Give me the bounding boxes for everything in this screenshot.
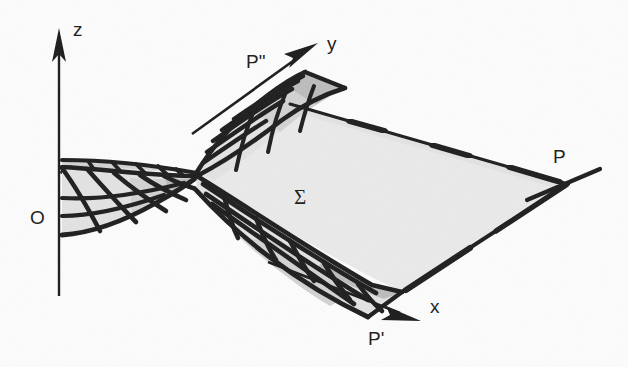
saddle-surface-diagram: reproducing the text of the correspondin… (0, 0, 628, 367)
label-z-axis: z (73, 19, 83, 40)
label-origin: O (30, 207, 45, 228)
label-point-p: P (553, 146, 566, 167)
label-y-axis: y (327, 33, 337, 54)
figure-root: reproducing the text of the correspondin… (0, 0, 628, 367)
label-x-axis: x (430, 296, 440, 317)
label-point-p-double-prime: P" (246, 51, 265, 72)
label-point-p-prime: P' (368, 328, 384, 349)
label-surface-sigma: Σ (294, 185, 306, 209)
